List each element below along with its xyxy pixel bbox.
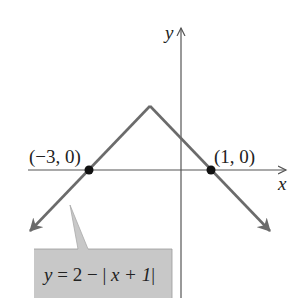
point-right-label: (1, 0)	[214, 146, 255, 168]
point-left	[85, 166, 94, 175]
callout-equation: y = 2 − | x + 1|	[42, 264, 155, 285]
y-axis-label: y	[163, 22, 174, 43]
graph-svg: y x (−3, 0) (1, 0) y = 2 − | x + 1|	[0, 0, 306, 307]
x-axis-label: x	[277, 173, 287, 194]
graph-figure: y x (−3, 0) (1, 0) y = 2 − | x + 1|	[0, 0, 306, 307]
point-left-label: (−3, 0)	[29, 146, 81, 168]
